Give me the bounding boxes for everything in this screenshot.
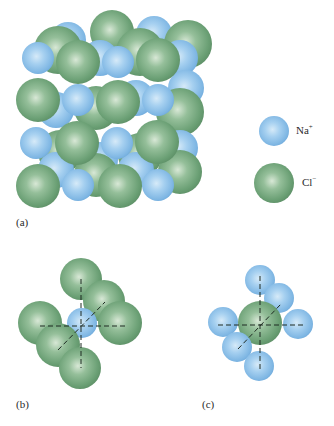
panel-b-octahedron	[18, 258, 142, 389]
legend-cl-sphere	[254, 163, 294, 203]
panel-b-label: (b)	[16, 398, 29, 410]
legend-na-label: Na+	[296, 124, 313, 136]
legend-na-sphere	[259, 116, 289, 146]
panel-c-label: (c)	[202, 398, 214, 410]
panel-c-octahedron	[208, 265, 313, 381]
legend-cl-label: Cl−	[302, 176, 316, 188]
panel-a-label: (a)	[16, 216, 28, 228]
nacl-figure	[0, 0, 334, 426]
